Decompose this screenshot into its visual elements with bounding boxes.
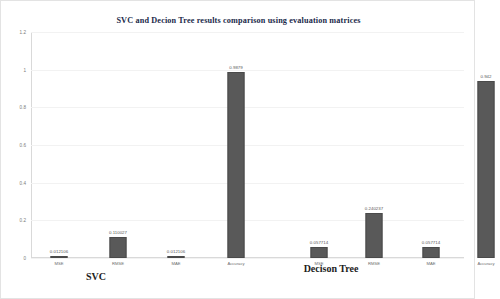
x-axis-category-label: MAE — [171, 261, 180, 266]
y-axis-tick-label: 0.4 — [20, 180, 26, 185]
group-label-svc: SVC — [86, 271, 106, 282]
bar-value-label: 0.012106 — [167, 249, 185, 254]
bar[interactable] — [478, 81, 495, 258]
bar-slot: 0.057714MSE — [289, 32, 349, 258]
bar-slot: 0.942Accuracy — [456, 32, 500, 258]
bar[interactable] — [228, 72, 245, 258]
bar-slot: 0.9879Accuracy — [206, 32, 266, 258]
y-axis-tick-label: 0.6 — [20, 143, 26, 148]
bar[interactable] — [423, 247, 440, 258]
bar-value-label: 0.110027 — [109, 230, 127, 235]
group-label-decision-tree: Decison Tree — [304, 263, 359, 274]
x-axis-category-label: RMSE — [112, 261, 124, 266]
y-axis-tick-label: 1.2 — [20, 30, 26, 35]
bar-slot: 0.012106MSE — [29, 32, 89, 258]
x-axis-category-label: RMSE — [368, 261, 380, 266]
bar-value-label: 0.942 — [481, 74, 492, 79]
y-axis-tick-label: 0 — [23, 256, 26, 261]
bar[interactable] — [110, 237, 127, 258]
x-axis-category-label: Accuracy — [227, 261, 244, 266]
bar-slot: 0.240237RMSE — [344, 32, 404, 258]
bar[interactable] — [51, 256, 68, 258]
bar-value-label: 0.9879 — [229, 65, 242, 70]
x-axis-category-label: MAE — [426, 261, 435, 266]
bar-slot: 0.012106MAE — [146, 32, 206, 258]
x-axis-category-label: Accuracy — [477, 261, 494, 266]
chart-title: SVC and Decion Tree results comparison u… — [1, 16, 476, 25]
bar-value-label: 0.057714 — [422, 240, 440, 245]
bar-value-label: 0.012106 — [50, 249, 68, 254]
y-axis-tick-label: 0.2 — [20, 218, 26, 223]
bar-value-label: 0.240237 — [365, 206, 383, 211]
bar[interactable] — [311, 247, 328, 258]
gridline — [31, 258, 464, 259]
bar[interactable] — [366, 213, 383, 258]
bar-slot: 0.110027RMSE — [88, 32, 148, 258]
y-axis-tick-label: 0.8 — [20, 105, 26, 110]
x-axis-category-label: MSE — [54, 261, 63, 266]
bar[interactable] — [168, 256, 185, 258]
plot-area: 00.20.40.60.811.2 0.012106MSE0.110027RMS… — [31, 32, 464, 258]
bar-slot: 0.057714MAE — [401, 32, 461, 258]
bar-value-label: 0.057714 — [310, 240, 328, 245]
y-axis-tick-label: 1 — [23, 67, 26, 72]
